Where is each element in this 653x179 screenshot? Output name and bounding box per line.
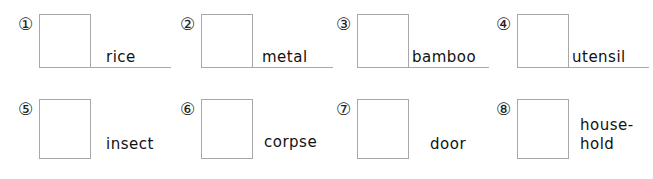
item-2: ② metal — [180, 14, 340, 94]
item-5: ⑤ insect — [18, 99, 178, 179]
item-word: bamboo — [412, 49, 476, 66]
underline — [253, 67, 333, 68]
item-4: ④ utensil — [496, 14, 653, 94]
item-6: ⑥ corpse — [180, 99, 340, 179]
answer-box[interactable] — [201, 99, 253, 159]
item-word: insect — [106, 136, 154, 153]
item-word: metal — [262, 49, 308, 66]
item-1: ① rice — [18, 14, 178, 94]
item-word: rice — [106, 49, 136, 66]
answer-box[interactable] — [357, 14, 409, 68]
underline — [409, 67, 489, 68]
item-number: ⑥ — [180, 99, 195, 119]
item-word-line1: house- — [580, 117, 634, 134]
item-number: ② — [180, 14, 195, 34]
item-number: ④ — [496, 14, 511, 34]
answer-box[interactable] — [201, 14, 253, 68]
answer-box[interactable] — [357, 99, 409, 159]
item-number: ⑤ — [18, 99, 33, 119]
item-number: ⑦ — [336, 99, 351, 119]
item-word: corpse — [264, 134, 317, 151]
underline — [569, 67, 649, 68]
answer-box[interactable] — [517, 99, 569, 159]
item-word: utensil — [572, 49, 626, 66]
item-number: ① — [18, 14, 33, 34]
item-number: ③ — [336, 14, 351, 34]
answer-box[interactable] — [39, 99, 91, 159]
answer-box[interactable] — [39, 14, 91, 68]
answer-box[interactable] — [517, 14, 569, 68]
item-8: ⑧ house- hold — [496, 99, 653, 179]
item-word-line2: hold — [580, 136, 614, 153]
item-word: door — [430, 136, 466, 153]
underline — [91, 67, 171, 68]
item-3: ③ bamboo — [336, 14, 496, 94]
item-number: ⑧ — [496, 99, 511, 119]
item-7: ⑦ door — [336, 99, 496, 179]
